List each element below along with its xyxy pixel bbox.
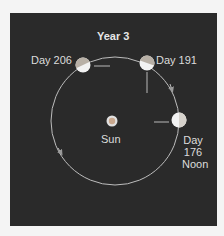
label-day-191: Day 191 <box>156 54 197 66</box>
sun-icon <box>107 116 118 127</box>
label-sun: Sun <box>101 133 121 145</box>
label-day-176: Day 176 Noon <box>182 134 204 170</box>
label-day-206: Day 206 <box>31 54 72 66</box>
label-day-176-line-2: 176 <box>182 146 204 158</box>
planet-day-191-icon <box>140 53 157 70</box>
label-day-176-line-1: Day <box>182 134 204 146</box>
planet-day-206-icon <box>73 55 90 72</box>
planet-day-176-icon <box>172 113 187 128</box>
label-day-176-line-3: Noon <box>182 158 204 170</box>
diagram-title: Year 3 <box>97 30 129 42</box>
